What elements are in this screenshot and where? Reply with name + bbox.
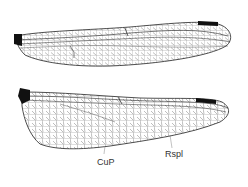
label-cup: CuP — [97, 157, 115, 167]
forewing — [14, 21, 231, 66]
label-rspl: Rspl — [165, 149, 183, 159]
wings-diagram — [0, 0, 248, 187]
hindwing — [18, 88, 229, 154]
